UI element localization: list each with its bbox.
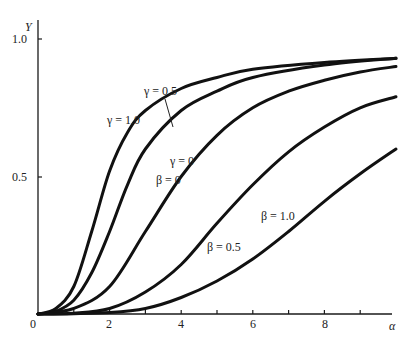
x-axis-label: α — [389, 319, 396, 333]
origin-label: 0 — [30, 317, 36, 331]
annotation-gamma-0.5: γ = 0.5 — [143, 84, 177, 98]
x-tick-label-2: 2 — [106, 317, 112, 331]
curve-series-2 — [38, 67, 396, 315]
annotation-gamma-0: γ = 0 — [169, 154, 194, 168]
annotation-beta-0.5: β = 0.5 — [207, 240, 241, 254]
x-tick-label-4: 4 — [178, 317, 184, 331]
curves — [38, 58, 396, 314]
x-tick-label-6: 6 — [250, 317, 256, 331]
y-tick-label-1.0: 1.0 — [12, 32, 27, 46]
x-tick-label-8: 8 — [322, 317, 328, 331]
annotation-beta-1.0: β = 1.0 — [261, 209, 295, 223]
annotation-beta-0: β = 0 — [156, 173, 181, 187]
y-tick-label-0.5: 0.5 — [12, 170, 27, 184]
annotation-gamma-1.0: γ = 1.0 — [106, 113, 140, 127]
chart-canvas: Y 1.0 0.5 0 2 4 6 8 α γ = 0.5 γ = 1.0 γ … — [0, 0, 419, 346]
